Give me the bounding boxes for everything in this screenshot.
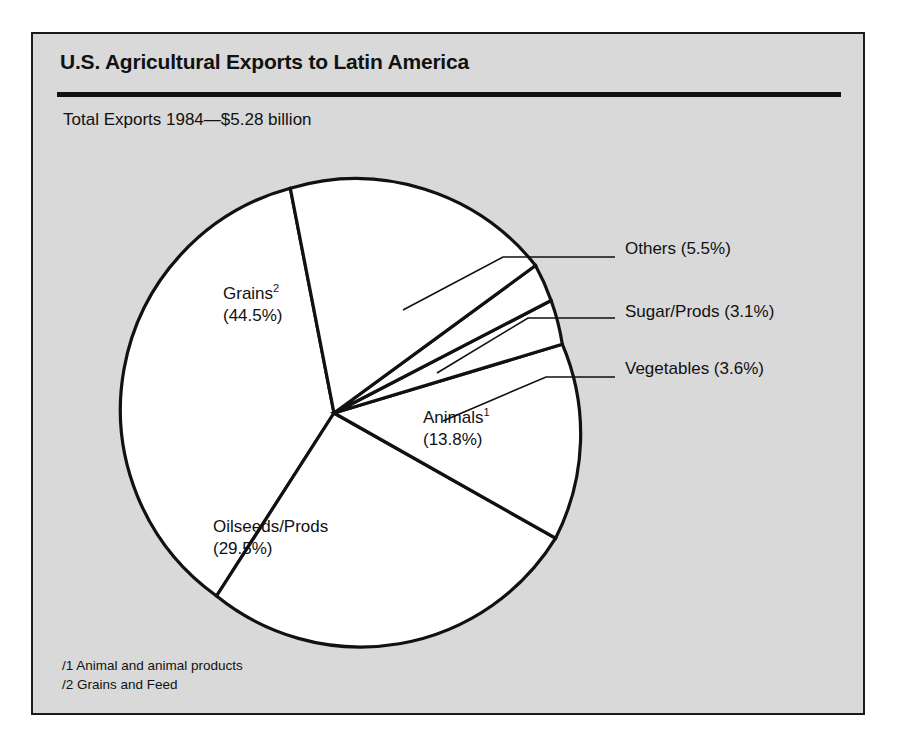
pie-label-animals: Animals1 (13.8%)	[423, 407, 490, 451]
pie-label-oilseeds: Oilseeds/Prods (29.5%)	[213, 516, 328, 560]
pie-callout-sugar: Sugar/Prods (3.1%)	[625, 302, 774, 322]
pie-chart: Grains2 (44.5%) Oilseeds/Prods (29.5%) A…	[33, 34, 865, 715]
footnote-marker-1: 1	[483, 406, 489, 418]
pie-callout-vegetables: Vegetables (3.6%)	[625, 359, 764, 379]
pie-label-oilseeds-name: Oilseeds/Prods	[213, 516, 328, 538]
pie-label-grains: Grains2 (44.5%)	[223, 283, 283, 327]
pie-label-animals-name: Animals1	[423, 407, 490, 429]
footnote-line-2: /2 Grains and Feed	[62, 676, 243, 695]
footnote-marker-2: 2	[273, 282, 279, 294]
chart-figure-panel: U.S. Agricultural Exports to Latin Ameri…	[31, 32, 865, 715]
pie-label-animals-value: (13.8%)	[423, 429, 490, 451]
pie-label-grains-name: Grains2	[223, 283, 283, 305]
pie-label-grains-value: (44.5%)	[223, 305, 283, 327]
pie-callout-others: Others (5.5%)	[625, 239, 731, 259]
footnote-line-1: /1 Animal and animal products	[62, 657, 243, 676]
pie-label-oilseeds-value: (29.5%)	[213, 538, 328, 560]
footnotes: /1 Animal and animal products /2 Grains …	[62, 657, 243, 694]
